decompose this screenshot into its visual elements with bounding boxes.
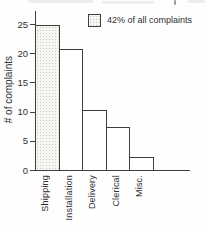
x-label-clerical: Clerical [111, 175, 124, 207]
x-label-installation: Installation [64, 175, 77, 220]
scan-artifact-mark [174, 0, 176, 5]
scan-artifact-streak [188, 0, 205, 3]
bar-installation [59, 49, 84, 171]
scan-artifact-streak [28, 0, 94, 3]
y-tick-label-5: 5 [6, 135, 28, 147]
bar-misc [129, 157, 154, 171]
x-label-misc: Misc. [134, 175, 147, 197]
x-label-delivery: Delivery [87, 175, 100, 209]
y-axis-title: # of complaints [3, 56, 17, 123]
legend-swatch [88, 14, 101, 27]
scan-artifact-streak [102, 1, 154, 4]
y-tick-label-25: 25 [6, 19, 28, 31]
legend-label: 42% of all complaints [107, 14, 192, 27]
x-label-shipping: Shipping [40, 175, 53, 212]
pareto-complaints-chart: 0510152025ShippingInstallationDeliveryCl… [0, 0, 205, 231]
y-tick-label-0: 0 [6, 165, 28, 177]
bar-clerical [106, 127, 131, 171]
bar-shipping [35, 25, 60, 171]
bar-delivery [82, 110, 107, 171]
